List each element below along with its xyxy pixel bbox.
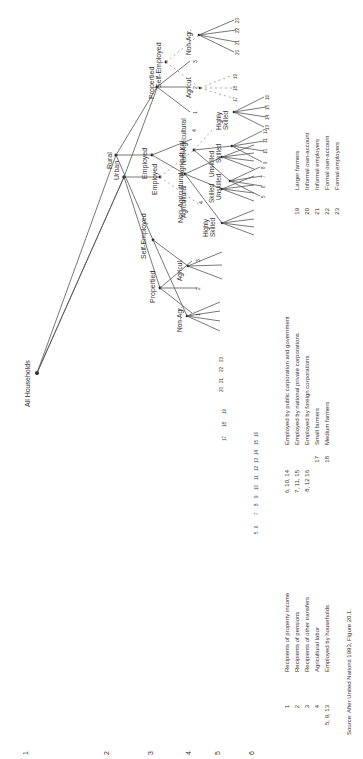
rural-leaf-6: 6 xyxy=(254,525,259,528)
urban-leaf-2: 2 xyxy=(195,287,201,290)
rural-leaf-7: 7 xyxy=(254,512,259,515)
urban-leaf-16: 16 xyxy=(265,94,270,100)
legend-text-10: Medium farmers xyxy=(324,402,330,445)
legend-text-7: Employed by national private corporation… xyxy=(294,333,300,445)
legend-code-12: 20 xyxy=(304,207,310,214)
urban-leaf-11: 11 xyxy=(263,138,268,143)
legend-code-3: 3 xyxy=(304,704,310,708)
rural-leaf-17: 17 xyxy=(222,435,227,441)
legend-code-11: 19 xyxy=(294,207,300,214)
legend-code-6: 6, 10, 14 xyxy=(284,469,290,493)
edge-ue-nonagri xyxy=(160,150,194,177)
rural-leaf-15: 15 xyxy=(254,439,259,445)
edge-us-agricul xyxy=(166,62,200,88)
urban-leaf-10: 10 xyxy=(263,148,268,154)
urban-leaf-8: 8 xyxy=(261,166,266,169)
rural-leaf-19: 19 xyxy=(222,408,227,414)
edge-u-highly xyxy=(194,130,212,150)
legend-code-2: 2 xyxy=(294,704,300,708)
urban-leaf-7: 7 xyxy=(261,175,266,178)
urban-skilled-label: Skilled xyxy=(215,143,222,163)
legend-code-9: 17 xyxy=(314,455,320,462)
edge-us-nonagr xyxy=(166,36,198,62)
rural-leaf-11: 11 xyxy=(254,475,259,480)
urban-leaf-17: 17 xyxy=(233,96,238,102)
urban-highly-fan xyxy=(234,97,266,127)
edge-u-unskilled xyxy=(194,150,230,181)
edge-urban-selfemp xyxy=(124,88,157,177)
urban-leaf-13: 13 xyxy=(265,124,270,130)
rural-leaf-10: 10 xyxy=(254,484,259,490)
legend-code-1: 1 xyxy=(284,704,290,708)
urban-nonagr-label: Non-Agr. xyxy=(185,29,193,55)
urban-leaf-19: 19 xyxy=(233,73,238,79)
rural-leaf-16: 16 xyxy=(254,431,259,437)
legend-code-14: 22 xyxy=(324,207,330,214)
source-note: Source: After United Nations 1993, Figur… xyxy=(346,609,352,735)
edge-u-skilled xyxy=(194,146,232,150)
legend-text-1: Recipients of property income xyxy=(284,592,290,672)
urban-propertied-fan xyxy=(160,261,197,313)
edge-root-urban-main xyxy=(37,177,124,373)
rural-leaf-12: 12 xyxy=(254,465,259,471)
rural-leaf-14: 14 xyxy=(254,449,259,455)
urban-leaf-23: 23 xyxy=(235,17,240,23)
urban-highly-skilled-label: Skilled xyxy=(222,110,229,130)
legend-text-14: Formal own-account xyxy=(324,135,330,190)
urban-employed-label: Employed xyxy=(151,164,159,195)
rural-leaf-21: 21 xyxy=(219,377,224,383)
legend-code-5: 5, 9, 13 xyxy=(324,704,330,725)
legend-code-10: 18 xyxy=(324,455,330,462)
urban-leaf-20: 20 xyxy=(235,49,240,55)
urban-leaf-14: 14 xyxy=(265,114,270,120)
rural-leaf-23: 23 xyxy=(219,356,224,362)
rural-leaf-20: 20 xyxy=(219,386,224,392)
legend-text-2: Recipients of pensions xyxy=(294,612,300,672)
urban-nonagr-fan xyxy=(199,20,236,52)
urban-leaf-1: 1 xyxy=(195,313,201,316)
legend-text-13: Informal employers xyxy=(314,139,320,190)
legend: 1 Recipients of property income 2 Recipi… xyxy=(284,132,340,725)
urban-leaf-4: 4 xyxy=(198,201,204,204)
rural-leaf-8: 8 xyxy=(254,503,259,506)
legend-text-9: Small farmers xyxy=(314,408,320,445)
legend-text-5: Employed by households xyxy=(324,605,330,672)
rural-leaf-numbers: 5 6 7 8 9 10 11 12 13 14 15 16 17 18 19 … xyxy=(219,356,259,534)
legend-text-8: Employed by foreign corporations xyxy=(304,356,310,445)
legend-text-15: Formal employers xyxy=(334,142,340,190)
rural-leaf-13: 13 xyxy=(254,457,259,463)
legend-text-11: Larger farmers xyxy=(294,151,300,190)
legend-text-4: Agricultural labor xyxy=(314,627,320,672)
urban-agricul-label: Agricul. xyxy=(185,76,193,98)
legend-code-7: 7, 11, 15 xyxy=(294,469,300,493)
urban-unskilled-label: Unskilled xyxy=(215,173,222,200)
legend-code-13: 21 xyxy=(314,207,320,214)
rural-leaf-5: 5 xyxy=(254,531,259,534)
urban-selfemp-label: Self-Employed xyxy=(155,42,163,88)
legend-code-8: 8, 12 16 xyxy=(304,469,310,491)
urban-propertied-label: Propertied xyxy=(149,271,157,303)
legend-text-12: Informal own-account xyxy=(304,132,310,190)
urban-nonagri-label: Non-Agricultural xyxy=(180,118,188,165)
urban-leaf-9: 9 xyxy=(263,161,268,164)
urban-leaf-5: 5 xyxy=(261,195,266,198)
urban-skilled-fan xyxy=(232,131,264,162)
legend-text-3: Recipients of other transfers xyxy=(304,597,310,672)
urban-leaf-3: 3 xyxy=(195,259,201,262)
urban-agricultural-label: Agricultural xyxy=(180,185,188,218)
urban-leaf-21: 21 xyxy=(235,39,240,45)
urban-branch-and-legend: Urban Propertied 1 2 3 Employed Agricult… xyxy=(0,0,363,759)
urban-unskilled-fan xyxy=(230,167,262,196)
urban-leaf-18: 18 xyxy=(233,85,238,91)
urban-leaf-22: 22 xyxy=(235,27,240,33)
legend-text-6: Employed by public corporation and gover… xyxy=(284,316,290,445)
rural-leaf-9: 9 xyxy=(254,495,259,498)
rural-leaf-18: 18 xyxy=(222,421,227,427)
legend-code-4: 4 xyxy=(314,704,320,708)
rural-leaf-22: 22 xyxy=(219,366,224,372)
legend-code-15: 23 xyxy=(334,207,340,214)
urban-agricul-fan xyxy=(200,76,234,98)
urban-leaf-15: 15 xyxy=(265,104,270,110)
urban-leaf-6: 6 xyxy=(261,185,266,188)
urban-label: Urban xyxy=(113,161,120,180)
